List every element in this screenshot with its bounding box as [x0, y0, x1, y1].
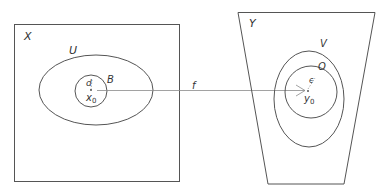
map-f-label: f: [192, 80, 197, 91]
ball-o: O ϵ y0: [285, 61, 337, 118]
continuity-diagram: X U B d x0 f Y V O ϵ y0: [0, 0, 389, 194]
point-x0-label: x0: [85, 92, 96, 105]
set-u-boundary: [39, 55, 153, 125]
point-y0-subscript: 0: [310, 98, 314, 106]
space-x-boundary: [15, 25, 180, 182]
space-x-label: X: [23, 30, 32, 43]
ball-o-label: O: [318, 61, 326, 72]
point-y0-label: y0: [303, 93, 314, 106]
set-v-label: V: [320, 38, 328, 49]
point-x0-subscript: 0: [92, 97, 96, 105]
space-y-label: Y: [249, 17, 257, 30]
set-u-label: U: [69, 44, 77, 57]
ball-o-boundary: [285, 66, 337, 118]
point-y0: [307, 90, 309, 92]
radius-epsilon-label: ϵ: [309, 76, 314, 85]
set-u: U: [39, 44, 153, 125]
ball-b-label: B: [107, 74, 114, 85]
point-x0: [90, 89, 92, 91]
radius-d-label: d: [86, 78, 92, 88]
space-x: X: [15, 25, 180, 182]
